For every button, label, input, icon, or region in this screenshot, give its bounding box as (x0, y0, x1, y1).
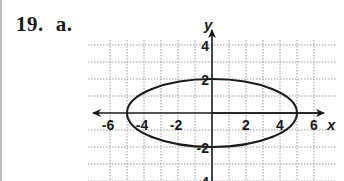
x-tick-label: -2 (170, 117, 183, 133)
x-tick-label: -6 (102, 117, 115, 133)
x-tick-label: 6 (310, 117, 318, 133)
y-tick-label: 4 (201, 38, 209, 54)
y-tick-label: -4 (197, 174, 210, 181)
x-axis-label: x (326, 116, 336, 133)
y-tick-label: -2 (197, 140, 210, 156)
ellipse-graph: -6-4-2246 42-2-4 x y (0, 0, 344, 181)
x-tick-label: 2 (242, 117, 250, 133)
x-tick-label: 4 (276, 117, 284, 133)
y-tick-label: 2 (201, 72, 209, 88)
x-tick-label: -4 (136, 117, 149, 133)
y-tick-labels: 42-2-4 (197, 38, 210, 181)
y-axis-label: y (203, 16, 213, 33)
